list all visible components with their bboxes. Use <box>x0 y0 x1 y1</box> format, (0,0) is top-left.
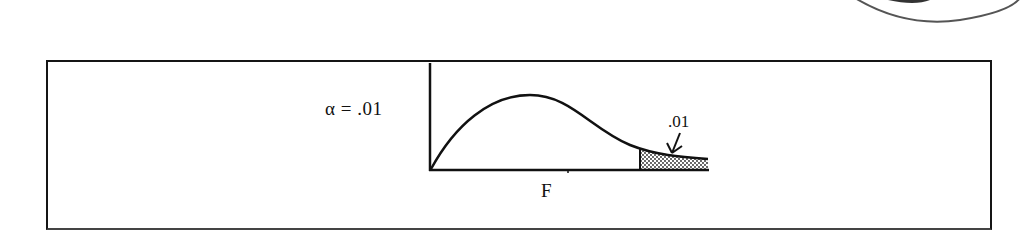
x-axis-label: F <box>541 180 552 202</box>
arrow-icon <box>667 133 682 153</box>
rejection-region <box>640 150 708 170</box>
tail-area-label: .01 <box>668 112 689 132</box>
f-distribution-plot <box>0 0 1025 232</box>
